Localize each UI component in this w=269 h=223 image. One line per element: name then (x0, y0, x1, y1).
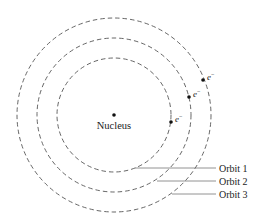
electron-orbit-1 (169, 120, 173, 124)
atom-diagram: Nucleus e− e− e− Orbit 1 Orbit 2 Orbit 3 (0, 0, 269, 223)
orbit-1-label: Orbit 1 (219, 163, 248, 174)
orbit-2-label: Orbit 2 (219, 176, 248, 187)
electron-label-1: e− (175, 113, 183, 124)
orbit-3-label: Orbit 3 (219, 189, 248, 200)
nucleus-label: Nucleus (97, 120, 131, 131)
nucleus-dot (112, 113, 116, 117)
electron-orbit-2 (187, 95, 191, 99)
electron-label-3: e− (207, 71, 215, 82)
electron-label-2: e− (193, 88, 201, 99)
electron-orbit-3 (201, 78, 205, 82)
